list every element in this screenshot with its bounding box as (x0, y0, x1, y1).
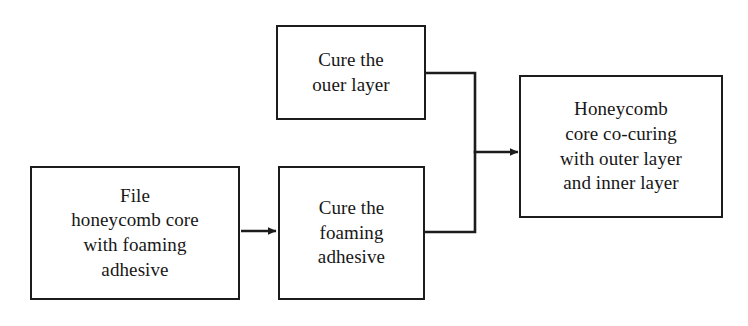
node-file-honeycomb-core[interactable]: File honeycomb core with foaming adhesiv… (30, 166, 240, 300)
edge-foam-to-merge (426, 152, 475, 232)
node-honeycomb-co-curing[interactable]: Honeycomb core co-curing with outer laye… (519, 75, 723, 218)
edge-outer-to-merge (426, 73, 475, 152)
node-cure-foaming-adhesive[interactable]: Cure the foaming adhesive (278, 166, 425, 300)
node-cure-foaming-adhesive-label: Cure the foaming adhesive (318, 196, 385, 270)
node-cure-outer-layer[interactable]: Cure the ouer layer (276, 25, 426, 120)
node-cure-outer-layer-label: Cure the ouer layer (312, 48, 389, 97)
flowchart-canvas: Cure the ouer layer File honeycomb core … (0, 0, 748, 326)
node-file-honeycomb-core-label: File honeycomb core with foaming adhesiv… (71, 184, 199, 283)
node-honeycomb-co-curing-label: Honeycomb core co-curing with outer laye… (560, 97, 682, 196)
